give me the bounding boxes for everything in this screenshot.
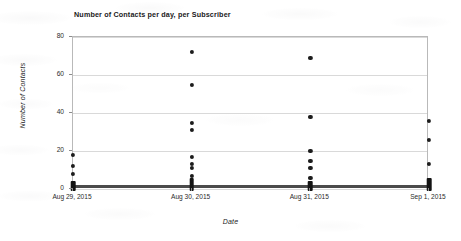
- data-point: [71, 172, 75, 176]
- data-point: [190, 82, 194, 86]
- data-point: [71, 153, 75, 157]
- data-point: [308, 149, 312, 153]
- y-tick-mark-60: [69, 74, 72, 75]
- gridline-y-0: [73, 189, 427, 190]
- y-tick-mark-40: [69, 112, 72, 113]
- gridline-y-80: [73, 37, 427, 38]
- y-axis-title: Number of Contacts: [19, 36, 26, 156]
- data-point: [427, 119, 431, 123]
- data-point: [308, 176, 312, 180]
- gridline-y-40: [73, 113, 427, 114]
- x-tick-label-0: Aug 29, 2015: [27, 193, 117, 200]
- x-tick-mark-1: [191, 188, 192, 191]
- data-point: [308, 56, 312, 60]
- x-axis-title: Date: [0, 218, 461, 225]
- data-point: [427, 162, 431, 166]
- data-point: [308, 166, 312, 170]
- data-point: [190, 166, 194, 170]
- y-tick-label-60: 60: [38, 71, 64, 78]
- y-tick-label-80: 80: [38, 33, 64, 40]
- y-tick-label-0: 0: [38, 185, 64, 192]
- data-point: [190, 120, 194, 124]
- x-tick-mark-0: [72, 188, 73, 191]
- x-tick-label-2: Aug 31, 2015: [264, 193, 354, 200]
- gridline-y-20: [73, 151, 427, 152]
- data-point: [190, 50, 194, 54]
- scatter-chart-figure: Number of Contacts per day, per Subscrib…: [0, 0, 461, 241]
- gridline-y-60: [73, 75, 427, 76]
- data-point: [190, 155, 194, 159]
- x-tick-mark-3: [428, 188, 429, 191]
- y-tick-mark-20: [69, 150, 72, 151]
- x-tick-mark-2: [309, 188, 310, 191]
- x-tick-label-3: Sep 1, 2015: [383, 193, 461, 200]
- y-tick-label-40: 40: [38, 109, 64, 116]
- data-point: [308, 115, 312, 119]
- plot-area: [72, 36, 428, 188]
- data-point: [308, 158, 312, 162]
- data-point: [71, 164, 75, 168]
- data-point: [190, 128, 194, 132]
- y-tick-label-20: 20: [38, 147, 64, 154]
- y-tick-mark-80: [69, 36, 72, 37]
- baseline-cluster-band: [73, 185, 427, 188]
- chart-title: Number of Contacts per day, per Subscrib…: [74, 10, 231, 19]
- data-point: [427, 138, 431, 142]
- x-tick-label-1: Aug 30, 2015: [146, 193, 236, 200]
